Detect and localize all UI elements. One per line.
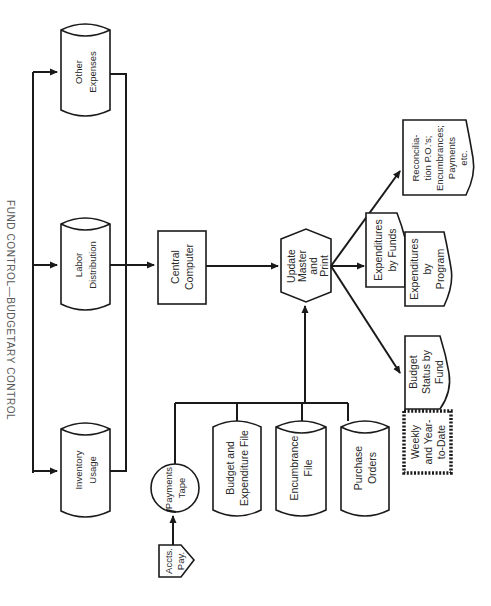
- node-expenditures-by-funds-document: Expenditures by Funds: [366, 213, 405, 287]
- svg-text:Computer: Computer: [183, 243, 195, 290]
- svg-text:Expenses: Expenses: [87, 51, 98, 93]
- svg-text:FUND CONTROL—BUDGETARY CONTROL: FUND CONTROL—BUDGETARY CONTROL: [5, 200, 16, 420]
- svg-text:tion P.O.'s;: tion P.O.'s;: [422, 136, 433, 181]
- svg-text:Payments: Payments: [446, 137, 457, 179]
- svg-text:Payments: Payments: [163, 467, 174, 509]
- node-update-master-and-print: Update Master and Print: [281, 229, 331, 302]
- node-other-expenses: Other Expenses: [61, 24, 110, 116]
- svg-text:Usage: Usage: [87, 456, 98, 483]
- node-inventory-usage: Inventory Usage: [61, 423, 110, 517]
- svg-text:Other: Other: [73, 60, 84, 84]
- svg-text:Inventory: Inventory: [73, 450, 84, 489]
- svg-text:Budget: Budget: [407, 355, 419, 388]
- svg-text:Program: Program: [434, 249, 446, 290]
- svg-text:Expenditure File: Expenditure File: [238, 430, 250, 506]
- svg-text:etc.: etc.: [458, 150, 469, 165]
- node-purchase-orders: Purchase Orders: [341, 421, 389, 516]
- svg-text:Purchase: Purchase: [352, 446, 364, 491]
- svg-text:by Funds: by Funds: [386, 228, 398, 271]
- svg-text:Encumbrance: Encumbrance: [288, 435, 300, 500]
- svg-text:File: File: [302, 459, 314, 476]
- svg-text:Print: Print: [318, 255, 330, 277]
- svg-text:to-Date: to-Date: [435, 425, 447, 460]
- flowchart-canvas: FUND CONTROL—BUDGETARY CONTROL Other Exp…: [0, 0, 491, 606]
- svg-text:Pay.: Pay.: [175, 552, 186, 570]
- bus-line-right: [110, 74, 126, 471]
- svg-text:Expenditures: Expenditures: [408, 238, 420, 299]
- svg-text:Accts.: Accts.: [163, 548, 174, 574]
- node-accts-pay: Accts. Pay.: [159, 545, 194, 577]
- svg-text:Budget and: Budget and: [224, 441, 236, 495]
- node-budget-status-document: Budget Status by Fund: [405, 336, 450, 409]
- diagram-title: FUND CONTROL—BUDGETARY CONTROL: [5, 200, 16, 420]
- svg-text:Labor: Labor: [73, 253, 84, 277]
- svg-text:Tape: Tape: [176, 478, 187, 499]
- node-weekly-year-to-date-annotation: Weekly and Year- to-Date: [404, 411, 451, 473]
- svg-text:by: by: [421, 263, 433, 275]
- svg-text:Expenditures: Expenditures: [372, 219, 384, 280]
- svg-text:Central: Central: [169, 250, 181, 284]
- node-budget-and-expenditure-file: Budget and Expenditure File: [213, 421, 261, 516]
- svg-text:Reconcilia-: Reconcilia-: [410, 135, 421, 182]
- svg-text:Distribution: Distribution: [87, 241, 98, 289]
- node-payments-tape: Payments Tape: [151, 464, 199, 512]
- node-encumbrance-file: Encumbrance File: [276, 421, 326, 516]
- node-expenditures-by-program-document: Expenditures by Program: [405, 232, 452, 306]
- svg-text:Weekly: Weekly: [409, 424, 421, 459]
- svg-text:Orders: Orders: [366, 452, 378, 484]
- node-reconciliation-document: Reconcilia- tion P.O.'s; Encumbrances; P…: [403, 120, 474, 195]
- svg-text:Fund: Fund: [433, 360, 445, 384]
- svg-text:Status by: Status by: [420, 349, 432, 394]
- node-labor-distribution: Labor Distribution: [61, 218, 110, 310]
- svg-text:Encumbrances;: Encumbrances;: [434, 125, 445, 191]
- node-central-computer: Central Computer: [158, 231, 206, 304]
- svg-text:and Year-: and Year-: [422, 419, 434, 464]
